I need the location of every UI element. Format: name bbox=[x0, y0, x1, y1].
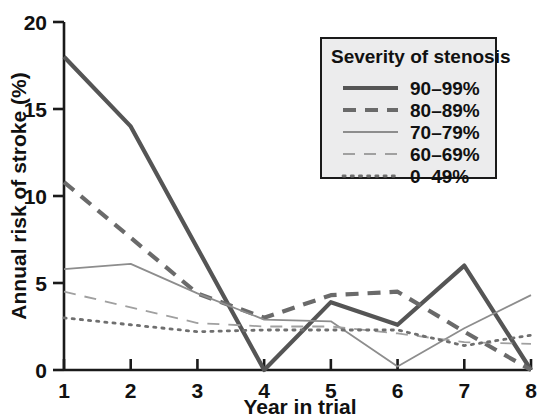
y-tick-label: 5 bbox=[35, 272, 47, 295]
legend: Severity of stenosis 90–99%80–89%70–79%6… bbox=[321, 38, 511, 187]
x-axis-ticks bbox=[64, 359, 531, 370]
legend-label-3: 70–79% bbox=[410, 122, 480, 143]
x-tick-label: 6 bbox=[392, 379, 404, 402]
x-tick-label: 8 bbox=[525, 379, 537, 402]
legend-title: Severity of stenosis bbox=[331, 46, 511, 67]
chart-figure: 05101520 12345678 Annual risk of stroke … bbox=[0, 0, 538, 419]
y-tick-label: 20 bbox=[24, 11, 47, 34]
chart-canvas: 05101520 12345678 Annual risk of stroke … bbox=[0, 0, 538, 419]
y-axis-title: Annual risk of stroke (%) bbox=[7, 72, 30, 319]
legend-label-1: 90–99% bbox=[410, 78, 480, 99]
x-axis-title: Year in trial bbox=[243, 395, 356, 418]
y-tick-label: 0 bbox=[35, 359, 47, 382]
x-tick-label: 3 bbox=[192, 379, 204, 402]
y-axis-ticks bbox=[53, 22, 64, 370]
series-line bbox=[64, 264, 531, 367]
legend-label-4: 60–69% bbox=[410, 144, 480, 165]
x-tick-label: 7 bbox=[458, 379, 470, 402]
legend-label-2: 80–89% bbox=[410, 100, 480, 121]
x-tick-label: 2 bbox=[125, 379, 137, 402]
legend-label-5: 0–49% bbox=[410, 166, 469, 187]
x-tick-label: 1 bbox=[58, 379, 70, 402]
